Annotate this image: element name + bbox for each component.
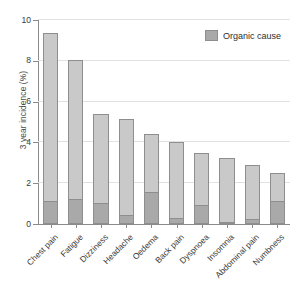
bar-dyspnoea	[194, 153, 209, 224]
bar-oedema	[144, 134, 159, 224]
legend: Organic cause	[205, 30, 281, 41]
x-tick-mark-5	[177, 224, 178, 228]
x-tick-mark-9	[277, 224, 278, 228]
bar-segment-organic-cause	[270, 201, 285, 224]
y-tick-label-2: 2	[0, 178, 31, 188]
bar-chest-pain	[43, 33, 58, 224]
y-tick-label-6: 6	[0, 96, 31, 106]
x-tick-mark-0	[51, 224, 52, 228]
y-tick-label-4: 4	[0, 137, 31, 147]
bar-segment-total	[169, 142, 184, 224]
bar-segment-organic-cause	[43, 201, 58, 224]
bar-abdominal-pain	[245, 165, 260, 224]
legend-label-organic-cause: Organic cause	[223, 31, 281, 41]
x-tick-mark-2	[101, 224, 102, 228]
y-tick-label-10: 10	[0, 15, 31, 25]
gridline-10	[38, 19, 290, 20]
bar-segment-total	[43, 33, 58, 224]
bar-back-pain	[169, 142, 184, 224]
x-tick-mark-4	[151, 224, 152, 228]
bar-segment-organic-cause	[119, 215, 134, 224]
x-tick-mark-6	[202, 224, 203, 228]
bar-segment-organic-cause	[68, 199, 83, 225]
bar-insomnia	[219, 158, 234, 224]
bar-numbness	[270, 173, 285, 224]
bar-headache	[119, 119, 134, 224]
x-tick-mark-1	[76, 224, 77, 228]
y-tick-label-8: 8	[0, 55, 31, 65]
bar-segment-organic-cause	[93, 203, 108, 224]
bar-segment-total	[219, 158, 234, 224]
y-tick-label-0: 0	[0, 219, 31, 229]
bar-dizziness	[93, 114, 108, 224]
x-tick-mark-3	[126, 224, 127, 228]
bar-segment-organic-cause	[194, 205, 209, 224]
bar-segment-total	[119, 119, 134, 224]
legend-swatch-organic-cause	[205, 30, 218, 41]
bar-fatigue	[68, 60, 83, 224]
bar-chart: 3 year incidence (%) 0246810 Chest painF…	[0, 0, 299, 296]
bar-segment-total	[245, 165, 260, 224]
bar-segment-organic-cause	[144, 192, 159, 224]
plot-area	[38, 20, 290, 224]
x-tick-mark-7	[227, 224, 228, 228]
x-tick-mark-8	[252, 224, 253, 228]
